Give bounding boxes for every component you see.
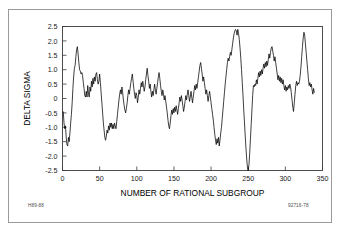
y-axis-tick-label: -0.5 [45,110,57,118]
x-axis-tick-label: 250 [242,175,254,183]
chart-plot: -2.5-2.0-1.5-1.0-0.500.51.01.52.02.50501… [0,0,341,233]
y-axis-tick-label: 2.5 [48,23,58,31]
figure-container: -2.5-2.0-1.5-1.0-0.500.51.01.52.02.50501… [0,0,341,233]
figure-code-left: H89-88 [28,203,44,208]
x-axis-tick-label: 50 [96,175,104,183]
y-axis-tick-label: -1.5 [45,138,57,146]
y-axis-tick-label: 0.5 [48,81,58,89]
y-axis-tick-label: 0 [54,95,58,103]
y-axis-tick-label: 2.0 [48,38,58,46]
y-axis-tick-label: -2.5 [45,167,57,175]
y-axis-tick-label: 1.0 [48,66,58,74]
y-axis-tick-label: -2.0 [45,153,57,161]
y-axis-tick-label: -1.0 [45,124,57,132]
x-axis-tick-label: 100 [131,175,143,183]
figure-code-right: 92716-78 [288,203,309,208]
y-axis-label: DELTA SIGMA [22,71,32,126]
x-axis-tick-label: 150 [168,175,180,183]
x-axis-tick-label: 0 [61,175,65,183]
x-axis-tick-label: 200 [205,175,217,183]
x-axis-tick-label: 300 [279,175,291,183]
y-axis-tick-label: 1.5 [48,52,58,60]
x-axis-label: NUMBER OF RATIONAL SUBGROUP [121,188,265,198]
x-axis-tick-label: 350 [317,175,329,183]
